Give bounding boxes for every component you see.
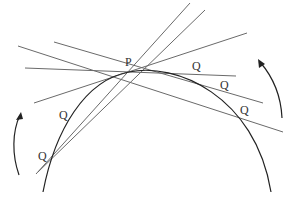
secant-line-right-2 [54, 42, 263, 103]
right-motion-arrow [260, 62, 282, 118]
secant-lines [18, 3, 283, 174]
secant-line-shallow-up [34, 33, 247, 103]
label-q-right-2: Q [220, 78, 229, 92]
secant-line-right-3 [18, 46, 283, 132]
label-q-left-1: Q [59, 108, 68, 122]
secant-line-steep-1 [36, 3, 190, 174]
label-p: P [125, 55, 132, 69]
secant-tangent-diagram: P Q Q Q Q Q [0, 0, 288, 200]
left-motion-arrow [14, 115, 20, 175]
left-arrowhead-icon [16, 112, 23, 120]
label-q-left-2: Q [38, 149, 47, 163]
label-q-right-3: Q [240, 103, 249, 117]
label-q-right-1: Q [192, 59, 201, 73]
secant-line-steep-2 [38, 10, 205, 172]
